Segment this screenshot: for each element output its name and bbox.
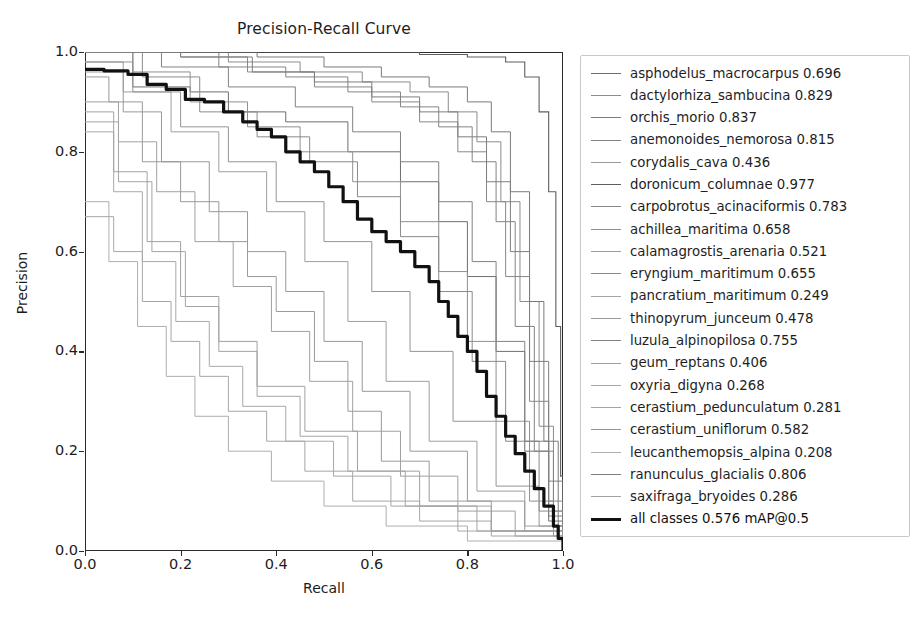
legend-color-swatch [591, 229, 621, 230]
legend-color-swatch [591, 140, 621, 141]
legend-color-swatch [591, 340, 621, 341]
legend-color-swatch [591, 407, 621, 408]
legend-item[interactable]: asphodelus_macrocarpus 0.696 [589, 62, 901, 84]
legend-label: ranunculus_glacialis 0.806 [630, 468, 806, 481]
legend-color-swatch [591, 429, 621, 430]
x-tick-mark [372, 551, 373, 556]
legend-item[interactable]: leucanthemopsis_alpina 0.208 [589, 441, 901, 463]
legend-color-swatch [591, 452, 621, 453]
legend-item[interactable]: orchis_morio 0.837 [589, 107, 901, 129]
legend-color-swatch [591, 273, 621, 274]
legend-item[interactable]: luzula_alpinopilosa 0.755 [589, 330, 901, 352]
legend-color-swatch [591, 162, 621, 163]
legend-item[interactable]: pancratium_maritimum 0.249 [589, 285, 901, 307]
y-tick-mark [79, 551, 84, 552]
legend-color-swatch [591, 318, 621, 319]
legend-label: anemonoides_nemorosa 0.815 [630, 133, 835, 146]
y-tick-label: 0.6 [32, 243, 78, 259]
legend-label: pancratium_maritimum 0.249 [630, 289, 829, 302]
legend-item[interactable]: carpobrotus_acinaciformis 0.783 [589, 196, 901, 218]
legend-label: saxifraga_bryoides 0.286 [630, 490, 798, 503]
legend-color-swatch [591, 95, 621, 96]
legend-item[interactable]: thinopyrum_junceum 0.478 [589, 307, 901, 329]
x-tick-mark [276, 551, 277, 556]
legend-label: oxyria_digyna 0.268 [630, 379, 765, 392]
legend-item[interactable]: dactylorhiza_sambucina 0.829 [589, 84, 901, 106]
legend-label: asphodelus_macrocarpus 0.696 [630, 67, 841, 80]
legend-label: orchis_morio 0.837 [630, 111, 757, 124]
y-axis-title: Precision [14, 228, 30, 338]
legend-item[interactable]: calamagrostis_arenaria 0.521 [589, 240, 901, 262]
y-tick-mark [79, 451, 84, 452]
x-tick-label: 1.0 [538, 556, 588, 572]
legend-label: luzula_alpinopilosa 0.755 [630, 334, 798, 347]
plot-area [85, 52, 563, 551]
legend-item[interactable]: oxyria_digyna 0.268 [589, 374, 901, 396]
legend: asphodelus_macrocarpus 0.696dactylorhiza… [580, 55, 910, 537]
legend-label: thinopyrum_junceum 0.478 [630, 312, 813, 325]
legend-item[interactable]: saxifraga_bryoides 0.286 [589, 486, 901, 508]
legend-color-swatch [591, 518, 621, 521]
x-tick-label: 0.2 [156, 556, 206, 572]
legend-item[interactable]: corydalis_cava 0.436 [589, 151, 901, 173]
y-tick-mark [79, 52, 84, 53]
y-tick-label: 0.2 [32, 442, 78, 458]
legend-color-swatch [591, 363, 621, 364]
legend-item[interactable]: achillea_maritima 0.658 [589, 218, 901, 240]
legend-label: eryngium_maritimum 0.655 [630, 267, 816, 280]
legend-label: doronicum_columnae 0.977 [630, 178, 815, 191]
legend-item[interactable]: cerastium_pedunculatum 0.281 [589, 396, 901, 418]
x-tick-mark [563, 551, 564, 556]
legend-label: cerastium_pedunculatum 0.281 [630, 401, 841, 414]
y-axis-tick-labels: 0.00.20.40.60.81.0 [24, 52, 78, 551]
legend-label: leucanthemopsis_alpina 0.208 [630, 446, 833, 459]
legend-label: carpobrotus_acinaciformis 0.783 [630, 200, 847, 213]
legend-label: calamagrostis_arenaria 0.521 [630, 245, 827, 258]
x-axis-title: Recall [85, 580, 563, 596]
legend-color-swatch [591, 296, 621, 297]
x-tick-label: 0.8 [442, 556, 492, 572]
y-tick-mark [79, 252, 84, 253]
x-tick-mark [181, 551, 182, 556]
chart-title: Precision-Recall Curve [85, 20, 563, 38]
chart-root: Precision-Recall Curve 0.00.20.40.60.81.… [0, 0, 920, 619]
precision-recall-curves [85, 52, 563, 551]
y-tick-label: 1.0 [32, 43, 78, 59]
legend-item[interactable]: cerastium_uniflorum 0.582 [589, 419, 901, 441]
y-tick-label: 0.8 [32, 143, 78, 159]
legend-item[interactable]: eryngium_maritimum 0.655 [589, 263, 901, 285]
x-tick-label: 0.4 [251, 556, 301, 572]
legend-item[interactable]: doronicum_columnae 0.977 [589, 173, 901, 195]
legend-label: corydalis_cava 0.436 [630, 156, 770, 169]
legend-label: all classes 0.576 mAP@0.5 [630, 512, 809, 525]
y-tick-mark [79, 152, 84, 153]
legend-color-swatch [591, 496, 621, 497]
legend-color-swatch [591, 184, 621, 185]
legend-color-swatch [591, 117, 621, 118]
y-tick-mark [79, 351, 84, 352]
legend-item[interactable]: ranunculus_glacialis 0.806 [589, 463, 901, 485]
class-curve [85, 202, 563, 551]
legend-color-swatch [591, 206, 621, 207]
x-tick-mark [467, 551, 468, 556]
x-tick-label: 0.6 [347, 556, 397, 572]
legend-color-swatch [591, 474, 621, 475]
legend-item[interactable]: all classes 0.576 mAP@0.5 [589, 508, 901, 530]
legend-label: dactylorhiza_sambucina 0.829 [630, 89, 833, 102]
x-tick-mark [85, 551, 86, 556]
legend-color-swatch [591, 385, 621, 386]
legend-label: achillea_maritima 0.658 [630, 223, 791, 236]
legend-item[interactable]: geum_reptans 0.406 [589, 352, 901, 374]
legend-label: cerastium_uniflorum 0.582 [630, 423, 809, 436]
legend-color-swatch [591, 73, 621, 74]
legend-color-swatch [591, 251, 621, 252]
legend-label: geum_reptans 0.406 [630, 356, 767, 369]
legend-item[interactable]: anemonoides_nemorosa 0.815 [589, 129, 901, 151]
x-axis-tick-labels: 0.00.20.40.60.81.0 [85, 556, 563, 582]
y-tick-label: 0.4 [32, 342, 78, 358]
x-tick-label: 0.0 [60, 556, 110, 572]
